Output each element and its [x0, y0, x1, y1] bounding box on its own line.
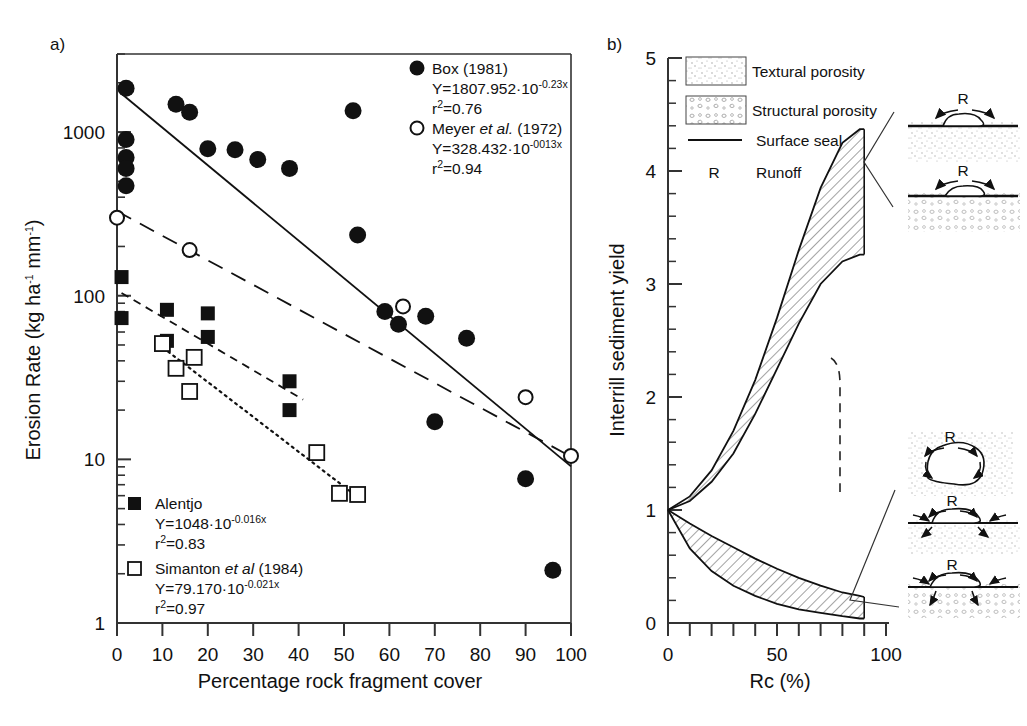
- legend-label-alentjo: Alentjo: [155, 495, 202, 512]
- panel-b-y-tick-label: 4: [645, 161, 656, 182]
- legend-label-runoff: Runoff: [756, 164, 802, 181]
- data-point-filled-square: [160, 303, 174, 317]
- panel-a-x-tick-label: 90: [515, 644, 536, 665]
- panel-b-x-tick-label: 100: [870, 644, 902, 665]
- data-point-filled-circle: [118, 80, 135, 97]
- legend-equation-meyer: Y=328.432·10-0013x: [432, 138, 563, 157]
- legend-r2-alentjo: r2=0.83: [155, 533, 205, 552]
- panel-b-y-tick-label: 5: [645, 48, 656, 69]
- data-point-open-circle: [564, 449, 578, 463]
- data-point-filled-circle: [227, 141, 244, 158]
- legend-label-meyer: Meyer et al. (1972): [432, 120, 562, 137]
- data-point-open-square: [169, 361, 184, 376]
- runoff-label-4: R: [946, 492, 957, 509]
- data-point-filled-square: [283, 403, 297, 417]
- data-point-filled-circle: [376, 303, 393, 320]
- panel-b-x-ticks: [668, 623, 886, 636]
- panel-b-x-tick-label: 0: [663, 644, 674, 665]
- panel-a-y-tick-label: 10: [84, 449, 105, 470]
- data-point-open-circle: [519, 390, 533, 404]
- legend-label-simanton: Simanton et al (1984): [155, 560, 303, 577]
- soil-diagram-structural-upper: R: [908, 162, 1020, 232]
- data-point-open-square: [350, 487, 365, 502]
- runoff-label-2: R: [957, 162, 968, 179]
- legend-r2-meyer: r2=0.94: [432, 158, 483, 177]
- panel-b-x-tick-labels: 050100: [663, 644, 902, 665]
- data-point-filled-circle: [349, 226, 366, 243]
- data-point-filled-circle: [517, 470, 534, 487]
- panel-a-x-tick-label: 20: [197, 644, 218, 665]
- panel-a-label: a): [50, 35, 65, 54]
- panel-b-y-tick-label: 0: [645, 613, 656, 634]
- data-point-filled-circle: [544, 562, 561, 579]
- legend-label-surface-seal: Surface seal: [756, 132, 842, 149]
- panel-b-y-ticks: [668, 58, 682, 623]
- legend-equation-box: Y=1807.952·10-0.23x: [432, 78, 568, 97]
- panel-a-y-axis-title: Erosion Rate (kg ha-1 mm-1): [22, 219, 44, 460]
- panel-b-upper-leader: [864, 112, 894, 207]
- legend-marker-filled-circle: [410, 61, 425, 76]
- data-point-open-square: [332, 486, 347, 501]
- data-point-filled-circle: [199, 140, 216, 157]
- legend-r2-simanton: r2=0.97: [155, 598, 205, 617]
- legend-label-box: Box (1981): [432, 60, 508, 77]
- legend-r2-box: r2=0.76: [432, 98, 482, 117]
- runoff-label-1: R: [957, 90, 968, 107]
- figure-svg: 1101001000 0102030405060708090100 012345…: [0, 0, 1027, 726]
- panel-a-x-tick-label: 40: [288, 644, 309, 665]
- data-point-filled-square: [201, 306, 215, 320]
- rock-fragment: [927, 442, 984, 484]
- data-point-filled-square: [115, 270, 129, 284]
- legend-equation-simanton: Y=79.170·10-0.021x: [155, 578, 280, 597]
- data-point-filled-circle: [181, 104, 198, 121]
- data-point-filled-circle: [345, 102, 362, 119]
- structural-porosity-swatch: [686, 96, 746, 124]
- data-point-filled-circle: [426, 413, 443, 430]
- legend-label-textural-porosity: Textural porosity: [752, 63, 865, 80]
- panel-b-y-tick-label: 1: [645, 500, 656, 521]
- data-point-filled-square: [115, 311, 129, 325]
- panel-a-legend-bottom: Alentjo Y=1048·10-0.016x r2=0.83 Simanto…: [128, 495, 303, 617]
- data-point-open-square: [309, 445, 324, 460]
- panel-a-y-tick-label: 1: [94, 613, 105, 634]
- data-point-filled-circle: [249, 151, 266, 168]
- panel-a-y-tick-label: 100: [73, 286, 105, 307]
- panel-b-upper-hatched-band: [668, 129, 864, 510]
- panel-a-legend-top: Box (1981) Y=1807.952·10-0.23x r2=0.76 M…: [410, 60, 569, 177]
- soil-diagram-embedded-3: R: [908, 556, 1020, 618]
- data-point-open-circle: [110, 211, 124, 225]
- panel-a-x-tick-labels: 0102030405060708090100: [112, 644, 587, 665]
- panel-a-x-tick-label: 70: [424, 644, 445, 665]
- panel-b-bands: [668, 129, 864, 618]
- data-point-filled-circle: [281, 160, 298, 177]
- data-point-filled-circle: [118, 131, 135, 148]
- textural-porosity-swatch: [686, 57, 746, 85]
- data-point-open-square: [187, 350, 202, 365]
- data-point-open-square: [182, 384, 197, 399]
- legend-label-structural-porosity: Structural porosity: [752, 102, 877, 119]
- legend-equation-alentjo: Y=1048·10-0.016x: [155, 513, 267, 532]
- panel-b-x-axis-title: Rc (%): [749, 670, 810, 692]
- data-point-open-square: [155, 336, 170, 351]
- data-point-filled-circle: [390, 316, 407, 333]
- data-point-open-circle: [396, 299, 410, 313]
- panel-b-y-tick-labels: 012345: [645, 48, 656, 634]
- soil-diagram-embedded-1: R: [908, 428, 1014, 496]
- panel-a-x-tick-label: 30: [243, 644, 264, 665]
- panel-b-y-tick-label: 2: [645, 387, 656, 408]
- panel-b-dashed-boundary: [831, 358, 840, 492]
- panel-a-y-tick-label: 1000: [63, 122, 105, 143]
- panel-a-fit-line-dotted: [158, 344, 362, 501]
- figure-container: 1101001000 0102030405060708090100 012345…: [0, 0, 1027, 726]
- runoff-symbol-swatch: R: [708, 164, 719, 181]
- panel-a-x-tick-label: 10: [152, 644, 173, 665]
- panel-a-x-ticks: [117, 623, 571, 636]
- panel-a-x-axis-title: Percentage rock fragment cover: [198, 670, 483, 692]
- panel-a-y-tick-labels: 1101001000: [63, 122, 105, 634]
- panel-a-x-tick-label: 80: [470, 644, 491, 665]
- data-point-filled-square: [283, 374, 297, 388]
- panel-b-y-tick-label: 3: [645, 274, 656, 295]
- panel-a-x-tick-label: 60: [379, 644, 400, 665]
- panel-b-y-axis-title: Interrill sediment yield: [606, 243, 628, 436]
- panel-b-label: b): [607, 35, 622, 54]
